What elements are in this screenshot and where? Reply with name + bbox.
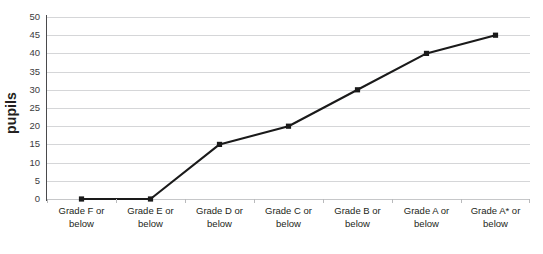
y-tick-label: 10	[0, 158, 44, 168]
y-tick-label: 40	[0, 48, 44, 58]
x-category-label-line2: below	[47, 218, 116, 231]
x-category-label: Grade A* orbelow	[461, 205, 530, 239]
x-category-label-line1: Grade C or	[265, 205, 312, 216]
data-point-marker	[355, 87, 360, 92]
cumulative-frequency-chart: pupils 05101520253035404550 Grade F orbe…	[0, 0, 543, 254]
chart-title-cropped	[0, 0, 543, 9]
x-tick-mark	[254, 199, 255, 203]
x-category-label-line2: below	[461, 218, 530, 231]
x-tick-mark	[116, 199, 117, 203]
x-category-label-line1: Grade F or	[59, 205, 105, 216]
x-tick-mark	[392, 199, 393, 203]
x-tick-mark	[47, 199, 48, 203]
x-axis-category-labels: Grade F orbelowGrade E orbelowGrade D or…	[47, 205, 530, 239]
x-category-label: Grade B orbelow	[323, 205, 392, 239]
series-pupils	[47, 17, 530, 199]
x-category-label: Grade C orbelow	[254, 205, 323, 239]
y-tick-label: 0	[0, 194, 44, 204]
y-tick-label: 5	[0, 176, 44, 186]
y-tick-label: 15	[0, 139, 44, 149]
y-tick-label: 50	[0, 12, 44, 22]
x-category-label-line1: Grade B or	[334, 205, 380, 216]
plot-area	[47, 17, 530, 199]
x-category-label-line2: below	[116, 218, 185, 231]
x-tick-mark	[529, 199, 530, 203]
x-category-label-line1: Grade D or	[196, 205, 243, 216]
data-point-marker	[424, 51, 429, 56]
x-category-label-line1: Grade A* or	[471, 205, 521, 216]
x-tick-mark	[323, 199, 324, 203]
series-markers	[79, 33, 498, 202]
x-category-label: Grade E orbelow	[116, 205, 185, 239]
x-category-label-line2: below	[185, 218, 254, 231]
y-tick-label: 30	[0, 85, 44, 95]
y-tick-label: 20	[0, 121, 44, 131]
data-point-marker	[493, 33, 498, 38]
series-line	[82, 35, 496, 199]
x-category-label-line1: Grade A or	[404, 205, 449, 216]
x-category-label-line2: below	[392, 218, 461, 231]
y-tick-label: 25	[0, 103, 44, 113]
y-tick-label: 35	[0, 67, 44, 77]
x-category-label: Grade D orbelow	[185, 205, 254, 239]
x-tick-mark	[185, 199, 186, 203]
y-axis-tick-labels: 05101520253035404550	[0, 0, 44, 254]
x-axis-ticks	[47, 199, 530, 204]
data-point-marker	[286, 124, 291, 129]
x-category-label: Grade A orbelow	[392, 205, 461, 239]
x-category-label-line2: below	[254, 218, 323, 231]
data-point-marker	[217, 142, 222, 147]
y-tick-label: 45	[0, 30, 44, 40]
x-category-label-line1: Grade E or	[127, 205, 173, 216]
x-category-label-line2: below	[323, 218, 392, 231]
x-tick-mark	[461, 199, 462, 203]
x-category-label: Grade F orbelow	[47, 205, 116, 239]
